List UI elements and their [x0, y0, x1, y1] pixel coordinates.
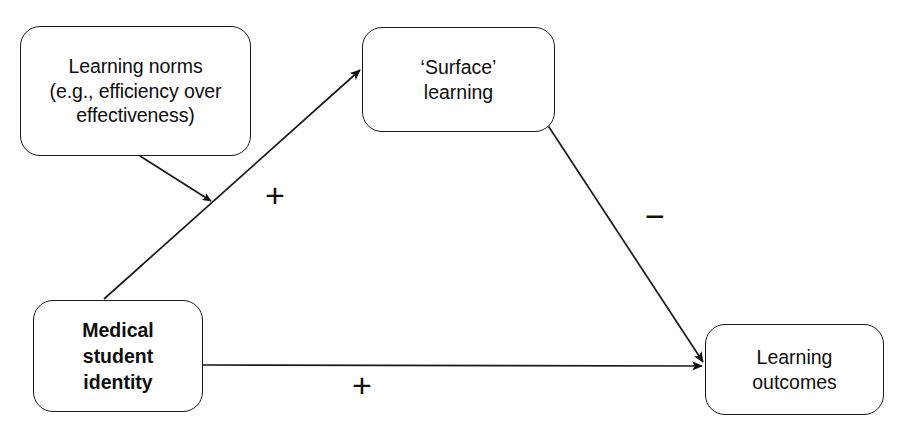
- node-medical-student-identity-label: Medical student identity: [82, 317, 154, 396]
- node-learning-outcomes[interactable]: Learning outcomes: [705, 324, 884, 415]
- node-surface-learning-label: ‘Surface’ learning: [421, 55, 497, 105]
- node-learning-norms[interactable]: Learning norms (e.g., efficiency over ef…: [20, 26, 251, 156]
- edge-identity-to-outcomes: [203, 365, 702, 366]
- node-medical-student-identity[interactable]: Medical student identity: [33, 300, 203, 412]
- edge-sign-plus-identity-to-surface: +: [265, 178, 285, 212]
- node-learning-outcomes-label: Learning outcomes: [752, 345, 837, 395]
- edge-surface-to-outcomes: [547, 124, 703, 362]
- edge-norms-to-path: [140, 156, 211, 201]
- diagram-canvas: Learning norms (e.g., efficiency over ef…: [0, 0, 902, 436]
- edge-sign-plus-identity-to-outcomes: +: [352, 368, 372, 402]
- node-learning-norms-label: Learning norms (e.g., efficiency over ef…: [50, 54, 222, 129]
- node-surface-learning[interactable]: ‘Surface’ learning: [362, 27, 555, 132]
- edge-sign-minus-surface-to-outcomes: −: [645, 199, 665, 233]
